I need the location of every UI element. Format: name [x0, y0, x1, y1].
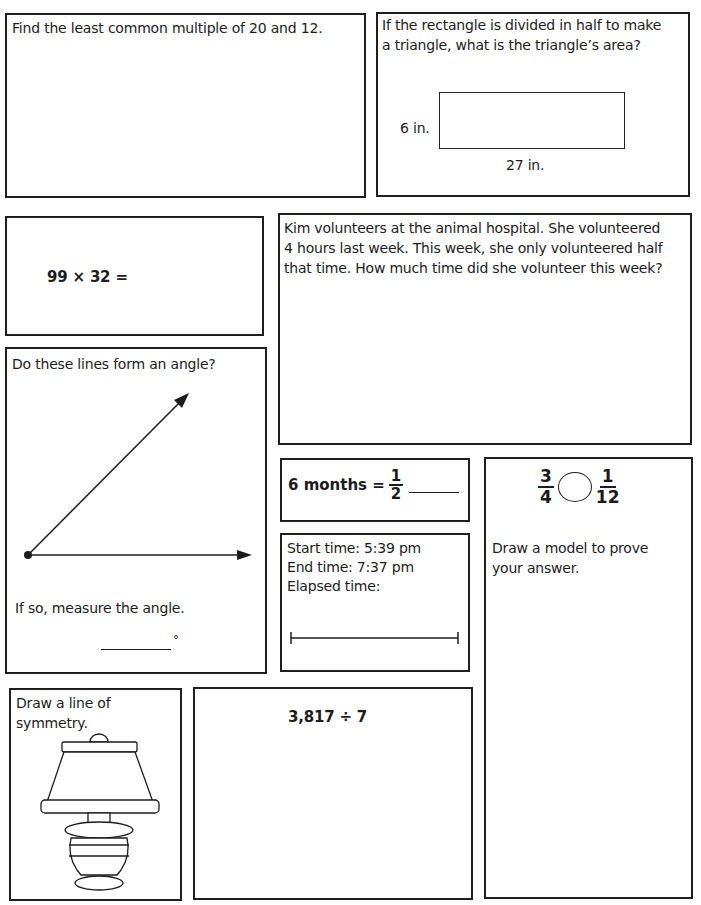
- fraction-numerator: 1: [389, 468, 403, 486]
- volunteer-line2: 4 hours last week. This week, she only v…: [284, 238, 662, 258]
- months-answer-line[interactable]: [409, 492, 459, 493]
- triangle-prompt-line2: a triangle, what is the triangle’s area?: [382, 35, 641, 55]
- left-numerator: 3: [538, 467, 554, 488]
- lcm-prompt: Find the least common multiple of 20 and…: [12, 18, 322, 38]
- timeline-figure: [282, 535, 472, 674]
- division-expression: 3,817 ÷ 7: [288, 707, 367, 727]
- one-half-fraction: 1 2: [389, 468, 403, 502]
- division-box: 3,817 ÷ 7: [193, 687, 473, 900]
- triangle-area-box: If the rectangle is divided in half to m…: [376, 12, 690, 197]
- elapsed-time-box: Start time: 5:39 pm End time: 7:37 pm El…: [280, 533, 470, 672]
- multiplication-box: 99 × 32 =: [5, 216, 264, 336]
- angle-follow-up: If so, measure the angle.: [15, 598, 185, 618]
- symmetry-box: Draw a line of symmetry.: [9, 688, 182, 901]
- degree-symbol: °: [173, 630, 179, 650]
- volunteer-word-problem-box: Kim volunteers at the animal hospital. S…: [278, 213, 692, 445]
- angle-answer-line[interactable]: [101, 649, 171, 650]
- fraction-comparison: 3 4 1 12: [538, 467, 620, 507]
- rectangle-figure: [439, 92, 625, 149]
- fraction-denominator: 2: [391, 486, 401, 502]
- right-numerator: 1: [600, 467, 616, 488]
- three-fourths-fraction: 3 4: [538, 467, 554, 507]
- model-prompt-line2: your answer.: [492, 558, 579, 578]
- model-prompt-line1: Draw a model to prove: [492, 538, 648, 558]
- lcm-problem-box: Find the least common multiple of 20 and…: [5, 13, 366, 198]
- comparison-circle[interactable]: [558, 472, 592, 502]
- months-expression: 6 months = 1 2: [288, 468, 459, 502]
- rectangle-height-label: 6 in.: [400, 118, 430, 138]
- compare-fractions-box: 3 4 1 12 Draw a model to prove your answ…: [484, 457, 693, 899]
- angle-box: Do these lines form an angle? If so, mea…: [5, 347, 267, 674]
- rectangle-width-label: 27 in.: [506, 155, 544, 175]
- volunteer-line1: Kim volunteers at the animal hospital. S…: [284, 218, 660, 238]
- volunteer-line3: that time. How much time did she volunte…: [284, 258, 662, 278]
- triangle-prompt-line1: If the rectangle is divided in half to m…: [382, 15, 661, 35]
- months-fraction-box: 6 months = 1 2: [280, 458, 470, 522]
- lamp-icon: [11, 690, 184, 903]
- one-twelfth-fraction: 1 12: [596, 467, 620, 507]
- months-left: 6 months =: [288, 476, 385, 494]
- right-denominator: 12: [596, 488, 620, 507]
- multiplication-expression: 99 × 32 =: [47, 267, 128, 287]
- left-denominator: 4: [540, 488, 552, 507]
- angle-rays-figure: [7, 349, 269, 676]
